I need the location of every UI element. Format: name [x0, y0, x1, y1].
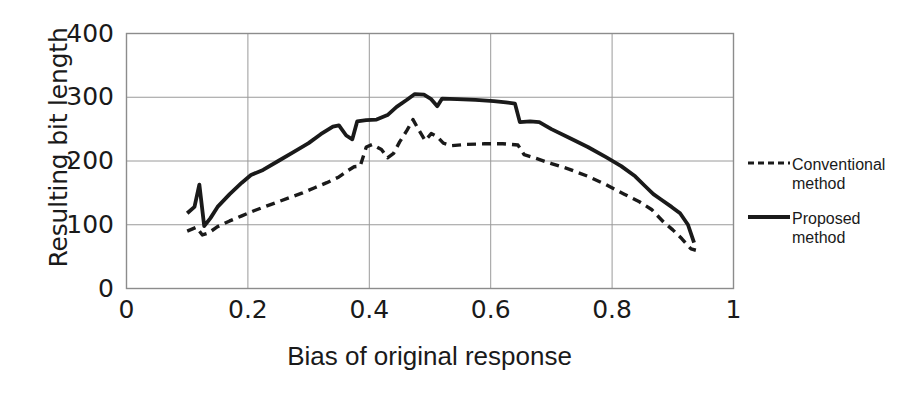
- legend-item[interactable]: Conventional method: [748, 155, 918, 193]
- solid-line-icon: [748, 211, 792, 231]
- chart-figure: Resulting bit length 0100200300400 00.20…: [0, 0, 922, 398]
- x-tick-label: 0.8: [572, 297, 652, 322]
- series-line-1: [187, 120, 696, 251]
- gridlines: [127, 34, 734, 289]
- x-tick-label: 0.6: [451, 297, 531, 322]
- legend: Conventional methodProposed method: [748, 155, 918, 263]
- x-tick-label: 0.2: [208, 297, 288, 322]
- data-series-layer: [187, 94, 696, 250]
- x-tick-label: 1: [694, 297, 774, 322]
- x-axis-title: Bias of original response: [126, 341, 733, 372]
- legend-label: Conventional method: [792, 155, 910, 193]
- dashed-line-icon: [748, 157, 792, 177]
- x-tick-label: 0.4: [329, 297, 409, 322]
- legend-label: Proposed method: [792, 209, 910, 247]
- x-axis-tick-labels: 00.20.40.60.81: [0, 297, 922, 337]
- series-line-2: [187, 94, 694, 243]
- x-tick-label: 0: [87, 297, 167, 322]
- legend-item[interactable]: Proposed method: [748, 209, 918, 247]
